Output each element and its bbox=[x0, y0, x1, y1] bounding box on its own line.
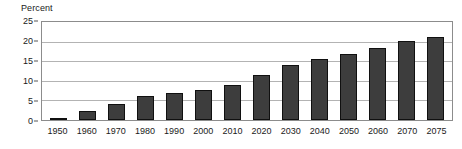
bar bbox=[166, 93, 183, 120]
bar bbox=[282, 65, 299, 120]
y-axis-title: Percent bbox=[21, 3, 53, 13]
plot-area bbox=[41, 21, 453, 121]
x-axis-tick-label: 2050 bbox=[335, 126, 363, 136]
x-axis-tick-labels: 1950196019701980199020002010202020302040… bbox=[41, 126, 453, 136]
y-axis-tick-mark bbox=[34, 21, 38, 22]
bar bbox=[427, 37, 444, 120]
bar-chart: Percent 0510152025 195019601970198019902… bbox=[0, 0, 462, 149]
x-axis-tick-label: 2030 bbox=[277, 126, 305, 136]
x-axis-tick-label: 2075 bbox=[422, 126, 450, 136]
bar bbox=[311, 59, 328, 120]
y-axis-tick-label: 15 bbox=[23, 56, 33, 66]
x-axis-tick-label: 1990 bbox=[160, 126, 188, 136]
x-axis-tick-label: 1970 bbox=[102, 126, 130, 136]
y-axis-tick-label: 25 bbox=[23, 16, 33, 26]
bar bbox=[79, 111, 96, 120]
bar bbox=[340, 54, 357, 120]
x-axis-tick-label: 1980 bbox=[131, 126, 159, 136]
y-axis-tick-label: 5 bbox=[28, 96, 33, 106]
y-axis-tick-label: 10 bbox=[23, 76, 33, 86]
x-axis-tick-label: 2070 bbox=[393, 126, 421, 136]
x-axis-tick-label: 2010 bbox=[218, 126, 246, 136]
bar bbox=[137, 96, 154, 120]
y-axis-tick-label: 0 bbox=[28, 116, 33, 126]
bar bbox=[369, 48, 386, 120]
y-axis-tick-label: 20 bbox=[23, 36, 33, 46]
x-axis-tick-label: 2060 bbox=[364, 126, 392, 136]
bar bbox=[253, 75, 270, 120]
bar bbox=[224, 85, 241, 120]
bar bbox=[195, 90, 212, 120]
y-axis-tick-mark bbox=[34, 101, 38, 102]
bar bbox=[398, 41, 415, 120]
bar bbox=[108, 104, 125, 120]
bars-container bbox=[42, 22, 452, 120]
y-axis-tick-mark bbox=[34, 41, 38, 42]
x-axis-tick-label: 2040 bbox=[306, 126, 334, 136]
x-axis-tick-label: 1950 bbox=[44, 126, 72, 136]
x-axis-tick-label: 2000 bbox=[189, 126, 217, 136]
y-axis-tick-mark bbox=[34, 121, 38, 122]
bar bbox=[50, 118, 67, 120]
y-axis-tick-mark bbox=[34, 81, 38, 82]
x-axis-tick-label: 2020 bbox=[248, 126, 276, 136]
y-axis-tick-mark bbox=[34, 61, 38, 62]
y-axis-tick-labels: 0510152025 bbox=[0, 21, 38, 121]
x-axis-tick-label: 1960 bbox=[73, 126, 101, 136]
